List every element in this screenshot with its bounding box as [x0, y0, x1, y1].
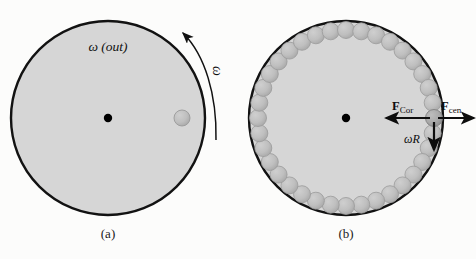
- tangential-velocity-label: ωR: [404, 132, 420, 146]
- ring-ball: [353, 196, 370, 213]
- ring-ball: [368, 192, 385, 209]
- centrifugal-force-label-sub: cen: [449, 105, 462, 115]
- ring-ball: [250, 110, 267, 127]
- ring-ball: [353, 23, 370, 40]
- panel-a-center-dot: [104, 114, 112, 122]
- panel-b-caption: (b): [338, 226, 353, 241]
- panel-a-caption: (a): [101, 226, 115, 241]
- ring-ball: [251, 94, 268, 111]
- ring-ball: [307, 27, 324, 44]
- physics-figure-rotating-disk: ω (out) ω (a) FCor Fcen: [0, 0, 476, 259]
- panel-a-ball: [174, 110, 190, 126]
- ring-ball: [420, 79, 437, 96]
- ring-ball: [255, 140, 272, 157]
- ring-ball: [251, 125, 268, 142]
- ring-ball: [424, 94, 441, 111]
- panel-a-omega-out-label: ω (out): [88, 39, 128, 54]
- ring-ball: [322, 196, 339, 213]
- ring-ball: [338, 22, 355, 39]
- ring-ball: [338, 198, 355, 215]
- figure-canvas: ω (out) ω (a) FCor Fcen: [0, 0, 476, 259]
- ring-ball: [424, 125, 441, 142]
- panel-b-center-dot: [342, 114, 350, 122]
- coriolis-force-label-sub: Cor: [400, 105, 414, 115]
- ring-ball: [322, 23, 339, 40]
- panel-a-omega-label: ω: [210, 66, 225, 76]
